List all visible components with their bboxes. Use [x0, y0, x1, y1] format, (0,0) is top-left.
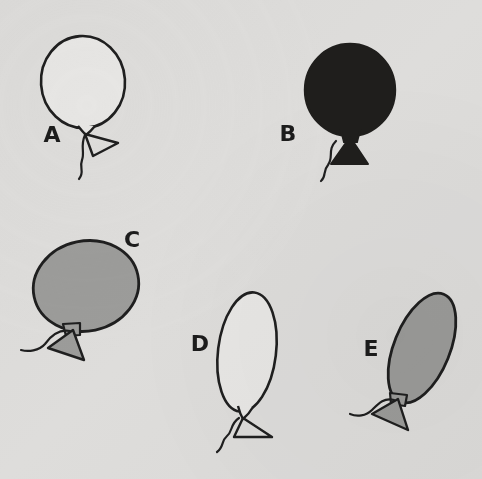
balloon-d-knot — [234, 418, 272, 437]
balloon-c: C — [21, 227, 147, 360]
balloon-a-label: A — [43, 122, 60, 147]
balloon-d-body — [211, 289, 283, 415]
balloon-c-label: C — [124, 227, 140, 252]
balloon-d: D — [191, 289, 283, 452]
balloon-a: A — [38, 33, 128, 179]
balloon-d-label: D — [191, 331, 209, 356]
balloon-a-knot — [85, 134, 118, 156]
balloon-a-body — [38, 33, 128, 131]
balloon-a-string — [79, 135, 85, 179]
balloon-drawing: A B C — [0, 0, 482, 479]
balloon-b-body — [305, 44, 395, 136]
balloon-b: B — [280, 44, 395, 181]
balloon-e-body — [374, 284, 469, 413]
balloon-figure: A B C — [0, 0, 482, 479]
balloon-d-neck — [238, 406, 253, 419]
balloon-e-label: E — [363, 336, 378, 361]
balloon-e: E — [350, 284, 470, 430]
balloon-b-label: B — [280, 121, 297, 146]
